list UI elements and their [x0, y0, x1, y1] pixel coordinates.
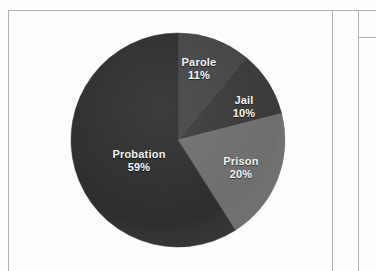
page-frame-right-border	[332, 10, 333, 271]
sidebar-divider-rule	[358, 37, 376, 38]
sidebar-vertical-rule	[358, 10, 359, 271]
pie-chart-svg	[9, 11, 332, 270]
pie-chart: Parole 11% Jail 10% Prison 20% Probation…	[9, 11, 332, 270]
scanned-page: Parole 11% Jail 10% Prison 20% Probation…	[0, 0, 376, 271]
pie-shading-overlay	[71, 33, 285, 247]
sidebar-top-rule	[358, 10, 376, 11]
